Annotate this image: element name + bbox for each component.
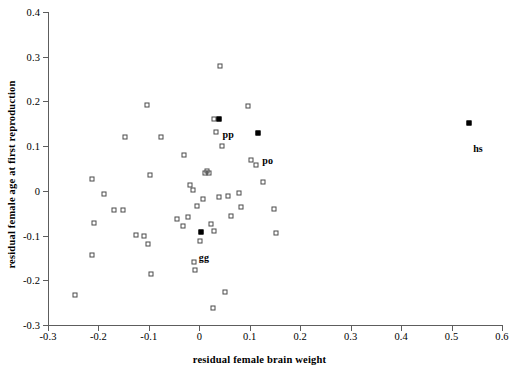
x-tick-label: 0.3 bbox=[344, 331, 357, 342]
data-point-open bbox=[174, 217, 179, 222]
data-point-open bbox=[254, 162, 259, 167]
x-tick-label: 0.2 bbox=[294, 331, 307, 342]
data-point-open bbox=[145, 103, 150, 108]
data-point-open bbox=[238, 204, 243, 209]
data-point-open bbox=[182, 152, 187, 157]
y-tick bbox=[43, 12, 48, 13]
data-point-open bbox=[214, 130, 219, 135]
data-point-open bbox=[200, 196, 205, 201]
y-axis-line bbox=[48, 12, 49, 326]
data-point-open bbox=[141, 234, 146, 239]
data-point-open bbox=[210, 306, 215, 311]
data-point-open bbox=[228, 214, 233, 219]
data-point-open bbox=[186, 214, 191, 219]
data-point-open bbox=[206, 170, 211, 175]
y-tick-label: -0.2 bbox=[23, 275, 40, 286]
x-axis-line bbox=[48, 325, 503, 326]
data-point-filled bbox=[198, 229, 203, 234]
y-tick bbox=[43, 57, 48, 58]
data-point-open bbox=[246, 104, 251, 109]
x-tick-label: 0 bbox=[197, 331, 202, 342]
y-tick-label: 0.1 bbox=[27, 141, 40, 152]
data-point-open bbox=[149, 272, 154, 277]
x-tick-label: 0.5 bbox=[445, 331, 458, 342]
y-tick bbox=[43, 191, 48, 192]
data-point-open bbox=[225, 194, 230, 199]
data-point-label: gg bbox=[199, 252, 209, 263]
data-point-open bbox=[121, 208, 126, 213]
data-point-open bbox=[211, 228, 216, 233]
data-point-label: pp bbox=[223, 129, 234, 140]
y-tick-label: 0.2 bbox=[27, 96, 40, 107]
data-point-filled bbox=[216, 117, 221, 122]
data-point-open bbox=[217, 64, 222, 69]
x-tick-label: 0.6 bbox=[495, 331, 508, 342]
data-point-open bbox=[193, 268, 198, 273]
data-point-open bbox=[219, 143, 224, 148]
data-point-open bbox=[271, 206, 276, 211]
data-point-open bbox=[111, 207, 116, 212]
y-tick-label: 0 bbox=[35, 185, 40, 196]
data-point-open bbox=[192, 259, 197, 264]
data-point-open bbox=[216, 195, 221, 200]
data-point-filled bbox=[467, 120, 472, 125]
x-tick-label: -0.2 bbox=[90, 331, 107, 342]
data-point-open bbox=[236, 191, 241, 196]
data-point-open bbox=[181, 223, 186, 228]
data-point-open bbox=[148, 173, 153, 178]
data-point-open bbox=[261, 180, 266, 185]
data-point-open bbox=[146, 241, 151, 246]
data-point-open bbox=[72, 292, 77, 297]
y-axis-title: residual female age at first reproductio… bbox=[6, 25, 17, 325]
y-tick-label: 0.4 bbox=[27, 7, 40, 18]
y-tick bbox=[43, 101, 48, 102]
x-axis-title: residual female brain weight bbox=[0, 354, 519, 365]
data-point-open bbox=[89, 252, 94, 257]
data-point-open bbox=[89, 177, 94, 182]
x-tick-label: -0.3 bbox=[39, 331, 56, 342]
data-point-filled bbox=[256, 131, 261, 136]
data-point-label: hs bbox=[473, 143, 483, 154]
data-point-open bbox=[102, 192, 107, 197]
scatter-plot: 0.40.30.20.10-0.1-0.2-0.3-0.3-0.2-0.100.… bbox=[0, 0, 519, 382]
y-tick-label: 0.3 bbox=[27, 51, 40, 62]
x-tick-label: 0.1 bbox=[243, 331, 256, 342]
data-point-open bbox=[122, 134, 127, 139]
data-point-open bbox=[158, 134, 163, 139]
data-point-open bbox=[274, 230, 279, 235]
y-tick-label: -0.1 bbox=[23, 230, 40, 241]
data-point-open bbox=[133, 233, 138, 238]
data-point-open bbox=[197, 238, 202, 243]
x-tick-label: -0.1 bbox=[140, 331, 157, 342]
y-tick bbox=[43, 280, 48, 281]
data-point-open bbox=[209, 221, 214, 226]
y-tick-label: -0.3 bbox=[23, 320, 40, 331]
data-point-open bbox=[91, 220, 96, 225]
y-tick bbox=[43, 236, 48, 237]
data-point-open bbox=[222, 289, 227, 294]
data-point-label: po bbox=[262, 155, 273, 166]
data-point-open bbox=[194, 204, 199, 209]
x-tick-label: 0.4 bbox=[394, 331, 407, 342]
y-tick bbox=[43, 146, 48, 147]
data-point-open bbox=[191, 187, 196, 192]
